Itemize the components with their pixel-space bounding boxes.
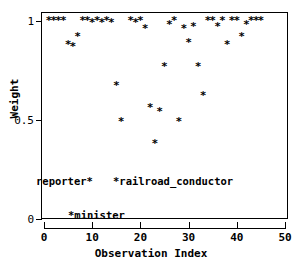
x-axis-tick bbox=[285, 222, 286, 229]
x-axis-tick-label: 30 bbox=[174, 232, 204, 243]
x-axis-tick bbox=[189, 222, 190, 229]
annotation-reporter: reporter* bbox=[36, 176, 93, 187]
y-axis-tick-label: 1 bbox=[27, 16, 34, 27]
x-axis-tick-label: 20 bbox=[125, 232, 155, 243]
x-axis-tick bbox=[140, 222, 141, 229]
y-axis-tick bbox=[36, 219, 42, 220]
y-axis-tick-label: 0.5 bbox=[14, 115, 34, 126]
x-axis-tick bbox=[92, 222, 93, 229]
x-axis-tick-label: 10 bbox=[77, 232, 107, 243]
x-axis-tick-label: 0 bbox=[29, 232, 59, 243]
plot-area bbox=[41, 12, 288, 219]
x-axis-tick bbox=[237, 222, 238, 229]
x-axis-title: Observation Index bbox=[0, 247, 302, 260]
x-axis-tick bbox=[44, 222, 45, 229]
annotation-minister: *minister bbox=[68, 210, 125, 221]
annotation-railroad-conductor: *railroad_conductor bbox=[113, 176, 233, 187]
x-axis-tick-label: 50 bbox=[270, 232, 300, 243]
x-axis-line bbox=[44, 228, 286, 229]
y-axis-tick-label: 0 bbox=[27, 214, 34, 225]
scatter-plot-figure: Weight 00.51 ***************************… bbox=[0, 0, 302, 264]
x-axis-tick-label: 40 bbox=[222, 232, 252, 243]
